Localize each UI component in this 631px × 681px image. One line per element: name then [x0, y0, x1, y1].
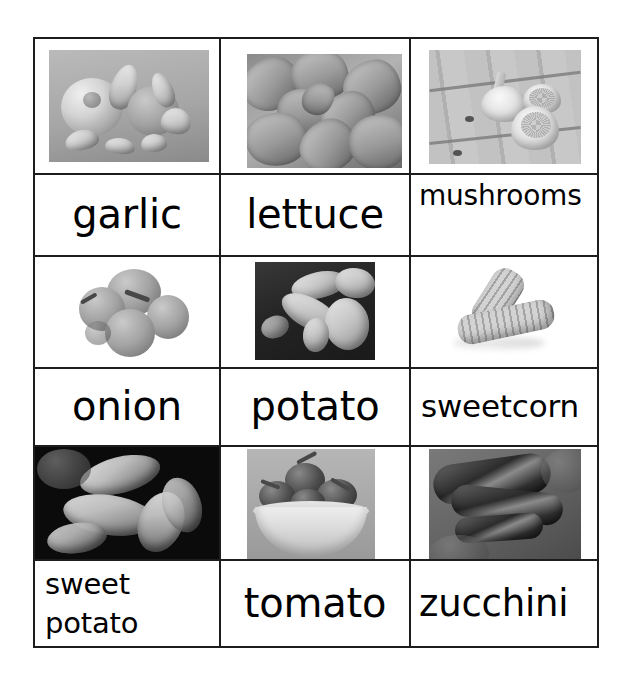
label-cell-mushrooms[interactable]: mushrooms	[411, 175, 597, 258]
mushrooms-photo	[429, 50, 581, 164]
card-label-lettuce: lettuce	[221, 175, 409, 256]
image-cell-onion[interactable]	[35, 257, 221, 369]
card-label-tomato: tomato	[221, 561, 409, 646]
card-label-sweet-potato-line1: sweet	[45, 565, 130, 604]
card-label-sweet-potato-line2: potato	[45, 604, 138, 643]
card-label-onion: onion	[35, 369, 219, 445]
label-cell-zucchini[interactable]: zucchini	[411, 561, 597, 646]
card-label-garlic: garlic	[35, 175, 219, 256]
label-cell-garlic[interactable]: garlic	[35, 175, 221, 258]
image-row-3	[35, 447, 597, 562]
sweet-potato-photo	[35, 447, 219, 562]
label-cell-potato[interactable]: potato	[221, 369, 411, 447]
image-cell-sweet-potato[interactable]	[35, 447, 221, 562]
card-label-zucchini: zucchini	[411, 561, 597, 646]
garlic-photo	[49, 50, 209, 162]
onion-photo	[65, 261, 191, 365]
label-cell-lettuce[interactable]: lettuce	[221, 175, 411, 258]
potato-photo	[255, 262, 375, 360]
image-cell-zucchini[interactable]	[411, 447, 597, 562]
image-cell-sweetcorn[interactable]	[411, 257, 597, 369]
zucchini-photo	[429, 449, 581, 561]
image-cell-garlic[interactable]	[35, 39, 221, 175]
card-label-sweetcorn: sweetcorn	[411, 369, 597, 445]
image-cell-potato[interactable]	[221, 257, 411, 369]
label-row-3: sweet potato tomato zucchini	[35, 561, 597, 646]
label-row-2: onion potato sweetcorn	[35, 369, 597, 447]
image-cell-tomato[interactable]	[221, 447, 411, 562]
label-cell-onion[interactable]: onion	[35, 369, 221, 447]
card-label-mushrooms: mushrooms	[411, 175, 597, 256]
label-cell-tomato[interactable]: tomato	[221, 561, 411, 646]
image-cell-mushrooms[interactable]	[411, 39, 597, 175]
card-label-potato: potato	[221, 369, 409, 445]
image-row-2	[35, 257, 597, 369]
image-cell-lettuce[interactable]	[221, 39, 411, 175]
label-cell-sweetcorn[interactable]: sweetcorn	[411, 369, 597, 447]
flashcard-grid: garlic lettuce mushrooms	[33, 37, 599, 648]
tomato-photo	[247, 449, 375, 561]
card-label-sweet-potato: sweet potato	[35, 561, 219, 646]
sweetcorn-photo	[433, 261, 573, 363]
lettuce-photo	[247, 54, 402, 168]
image-row-1	[35, 39, 597, 175]
label-cell-sweet-potato[interactable]: sweet potato	[35, 561, 221, 646]
label-row-1: garlic lettuce mushrooms	[35, 175, 597, 258]
